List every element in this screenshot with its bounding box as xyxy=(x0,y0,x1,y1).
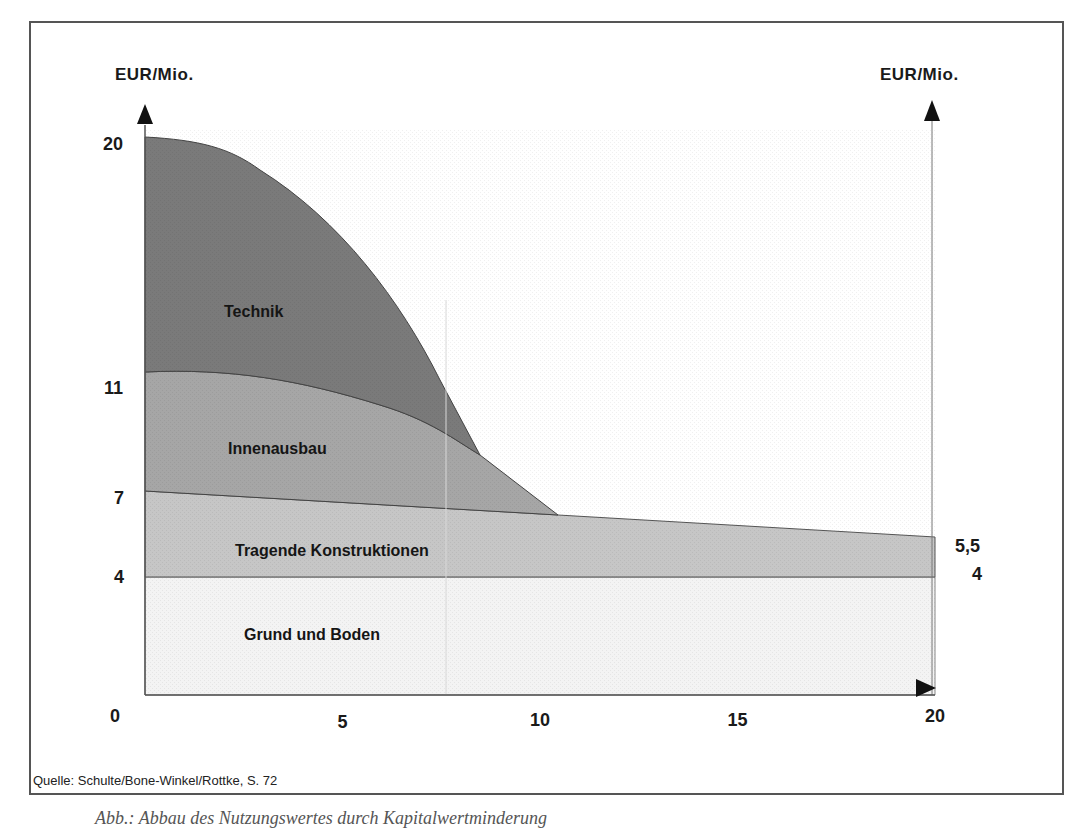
x-tick-5: 5 xyxy=(338,712,348,733)
y-right-tick-4: 4 xyxy=(972,564,982,585)
label-technik: Technik xyxy=(224,303,283,321)
x-tick-10: 10 xyxy=(530,710,550,731)
x-tick-15: 15 xyxy=(728,710,748,731)
y-tick-4: 4 xyxy=(114,567,124,588)
source-note: Quelle: Schulte/Bone-Winkel/Rottke, S. 7… xyxy=(33,773,277,788)
y-axis-left-title: EUR/Mio. xyxy=(115,65,194,85)
y-axis-left-arrow-icon xyxy=(137,104,153,124)
y-tick-20: 20 xyxy=(103,134,123,155)
texture-overlay xyxy=(145,130,935,696)
label-innenausbau: Innenausbau xyxy=(228,440,327,458)
y-right-tick-5-5: 5,5 xyxy=(955,536,980,557)
label-grund-und-boden: Grund und Boden xyxy=(244,626,380,644)
y-tick-7: 7 xyxy=(114,488,124,509)
figure-caption: Abb.: Abbau des Nutzungswertes durch Kap… xyxy=(95,808,547,829)
y-tick-11: 11 xyxy=(104,378,123,399)
x-tick-0: 0 xyxy=(110,706,120,727)
y-axis-right-title: EUR/Mio. xyxy=(880,65,959,85)
x-tick-20: 20 xyxy=(925,706,945,727)
y-axis-right-arrow-icon xyxy=(924,100,940,121)
label-tragende-konstruktionen: Tragende Konstruktionen xyxy=(235,542,429,560)
